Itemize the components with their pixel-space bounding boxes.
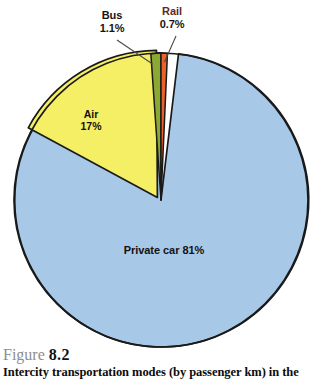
pie-label-rail: Rail 0.7% (148, 5, 196, 30)
figure-caption: Figure 8.2 Intercity transportation mode… (3, 345, 316, 380)
pie-label-rail-value: 0.7% (148, 18, 196, 31)
pie-label-air-value: 17% (69, 120, 113, 132)
leader-line-rail (165, 36, 177, 62)
pie-chart-svg (0, 0, 316, 350)
pie-label-private-car: Private car 81% (112, 244, 216, 256)
figure-number: 8.2 (49, 346, 70, 363)
pie-label-rail-name: Rail (148, 5, 196, 18)
pie-label-bus: Bus 1.1% (88, 9, 136, 34)
figure-8-2: Bus 1.1% Rail 0.7% Air 17% Private car 8… (0, 0, 316, 385)
pie-label-air-name: Air (69, 108, 113, 120)
figure-word: Figure (3, 346, 45, 363)
figure-number-line: Figure 8.2 (3, 345, 316, 364)
pie-label-bus-value: 1.1% (88, 22, 136, 35)
figure-caption-text: Intercity transportation modes (by passe… (3, 365, 316, 380)
pie-chart: Bus 1.1% Rail 0.7% Air 17% Private car 8… (0, 0, 316, 350)
pie-label-air: Air 17% (69, 108, 113, 132)
pie-label-bus-name: Bus (88, 9, 136, 22)
pie-label-private-car-text: Private car 81% (124, 244, 205, 256)
